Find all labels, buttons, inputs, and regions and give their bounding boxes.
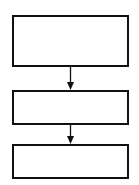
flowchart-box-3 <box>13 145 128 178</box>
arrowhead-icon <box>67 82 74 90</box>
flowchart-box-2 <box>13 91 128 124</box>
flowchart-box-1 <box>13 16 128 66</box>
arrow-2-to-3 <box>67 125 74 144</box>
arrow-1-to-2 <box>67 67 74 90</box>
arrowhead-icon <box>67 136 74 144</box>
flowchart-canvas <box>0 0 139 185</box>
